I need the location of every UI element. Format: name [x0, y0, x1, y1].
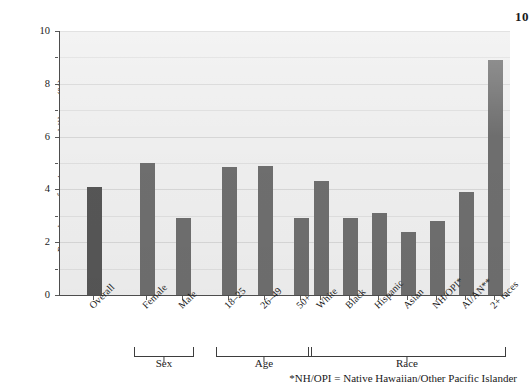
y-tick-mark-minor: [55, 269, 58, 270]
y-tick-label: 10: [28, 26, 50, 37]
group-name: Sex: [156, 357, 173, 369]
bar: [140, 163, 155, 295]
bar: [314, 181, 329, 295]
bar: [294, 218, 309, 295]
group-name: Race: [396, 357, 418, 369]
bar: [258, 166, 273, 295]
plot-area: [59, 31, 510, 296]
y-tick-label: 6: [28, 132, 50, 143]
group-brace: [134, 347, 194, 357]
bar: [87, 187, 102, 295]
y-tick-mark-minor: [55, 216, 58, 217]
bar-series: [60, 31, 510, 295]
bar: [430, 221, 445, 295]
bar: [222, 167, 237, 295]
bar: [488, 60, 503, 295]
bar: [343, 218, 358, 295]
y-tick-label: 2: [28, 237, 50, 248]
y-tick-label: 4: [28, 184, 50, 195]
group-name: Age: [255, 357, 273, 369]
y-tick-mark-minor: [55, 163, 58, 164]
y-tick-mark-minor: [55, 110, 58, 111]
group-brace: [308, 347, 506, 357]
group-brace: [216, 347, 312, 357]
y-tick-label: 0: [28, 290, 50, 301]
y-tick-mark-minor: [55, 57, 58, 58]
y-tick-label: 8: [28, 79, 50, 90]
footnote: *NH/OPI = Native Hawaiian/Other Pacific …: [289, 372, 517, 384]
bar: [176, 218, 191, 295]
bar: [372, 213, 387, 295]
